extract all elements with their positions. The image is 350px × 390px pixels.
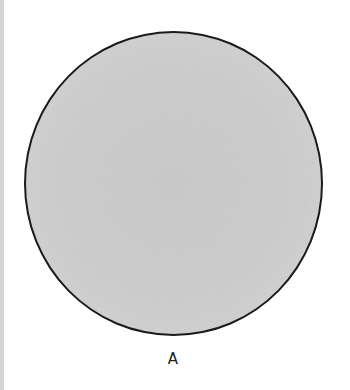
circle-figure: A: [0, 0, 350, 390]
figure-label: A: [163, 350, 183, 368]
gray-circle: [24, 31, 323, 336]
stipple-texture: [26, 33, 321, 334]
